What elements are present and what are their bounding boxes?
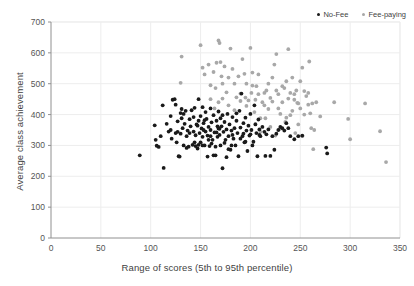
x-axis-title: Range of scores (5th to 95th percentile) — [0, 262, 414, 273]
y-tick-labels: 0100200300400500600700 — [31, 17, 45, 243]
svg-text:150: 150 — [193, 243, 207, 253]
svg-text:300: 300 — [343, 243, 357, 253]
svg-text:300: 300 — [31, 140, 45, 150]
svg-text:400: 400 — [31, 110, 45, 120]
y-axis-title: Average class achievement — [14, 27, 25, 237]
svg-text:0: 0 — [49, 243, 54, 253]
scatter-chart: No-Fee Fee-paying 0100200300400500600700… — [0, 0, 414, 286]
svg-text:500: 500 — [31, 79, 45, 89]
svg-text:50: 50 — [96, 243, 106, 253]
plot-area: 0100200300400500600700 05010015020025030… — [0, 0, 414, 286]
x-tick-labels: 050100150200250300350 — [49, 243, 408, 253]
svg-text:100: 100 — [144, 243, 158, 253]
svg-text:600: 600 — [31, 48, 45, 58]
svg-text:100: 100 — [31, 202, 45, 212]
svg-text:200: 200 — [243, 243, 257, 253]
svg-text:700: 700 — [31, 17, 45, 27]
svg-text:350: 350 — [393, 243, 407, 253]
svg-text:200: 200 — [31, 171, 45, 181]
svg-text:250: 250 — [293, 243, 307, 253]
svg-text:0: 0 — [40, 233, 45, 243]
